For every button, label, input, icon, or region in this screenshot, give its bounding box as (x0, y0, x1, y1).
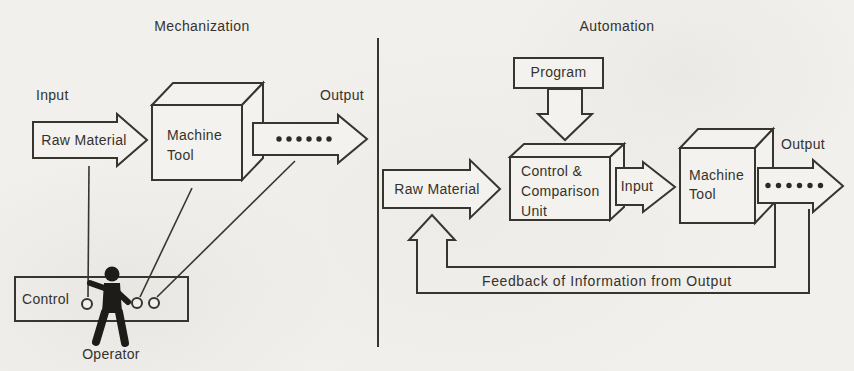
auto-feedback-label: Feedback of Information from Output (482, 273, 732, 289)
mech-raw-material-label: Raw Material (36, 132, 132, 148)
auto-program-down-arrow (538, 89, 592, 140)
mech-output-arrow (253, 115, 367, 163)
auto-machine-tool-label: Machine Tool (689, 166, 749, 204)
mechanization-title: Mechanization (137, 18, 267, 34)
auto-raw-material-label: Raw Material (385, 181, 489, 197)
mech-machine-tool-label: Machine Tool (167, 125, 227, 165)
mech-input-label: Input (36, 87, 69, 103)
mech-control-label: Control (22, 291, 69, 307)
operator-label: Operator (76, 346, 146, 362)
auto-program-label: Program (514, 64, 603, 80)
auto-input-label: Input (614, 178, 660, 194)
automation-title: Automation (552, 18, 682, 34)
auto-control-unit-label: Control & Comparison Unit (521, 161, 615, 221)
auto-output-label: Output (775, 136, 831, 152)
diagram-figure: Mechanization Input Raw Material Machine… (0, 0, 854, 371)
mech-output-label: Output (314, 87, 370, 103)
